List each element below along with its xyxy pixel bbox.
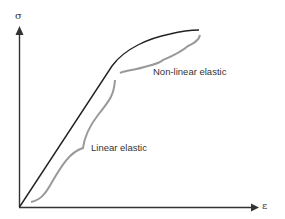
x-axis-label: ε xyxy=(262,200,267,211)
y-axis-arrow-icon xyxy=(16,26,24,35)
x-axis-arrow-icon xyxy=(251,204,259,212)
linear-elastic-brace xyxy=(31,80,115,202)
diagram-canvas xyxy=(0,0,285,219)
non-linear-elastic-label: Non-linear elastic xyxy=(153,66,226,77)
y-axis-label: σ xyxy=(15,10,22,21)
linear-elastic-label: Linear elastic xyxy=(91,142,147,153)
